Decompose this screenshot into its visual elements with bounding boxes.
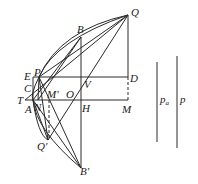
- label-V: V: [84, 78, 92, 90]
- label-p-a: pa: [159, 93, 170, 107]
- label-P: P: [33, 66, 41, 78]
- label-N: N: [33, 101, 42, 113]
- label-B: B: [77, 23, 84, 35]
- label-Q-prime: Q': [37, 140, 48, 152]
- chord-BN: [38, 37, 81, 100]
- label-Q: Q: [131, 6, 139, 18]
- label-M: M: [121, 103, 132, 115]
- label-B-prime: B': [80, 165, 90, 177]
- label-D: D: [129, 72, 138, 84]
- geometry-diagram: Q B E P V D C T A N M' O H M Q' B' pa p: [0, 0, 198, 184]
- label-O: O: [66, 88, 74, 100]
- label-M-prime: M': [46, 88, 59, 100]
- label-p: p: [179, 93, 186, 105]
- label-T: T: [17, 94, 24, 106]
- label-C: C: [24, 82, 32, 94]
- label-A: A: [24, 103, 32, 115]
- label-H: H: [81, 102, 91, 114]
- label-E: E: [23, 70, 31, 82]
